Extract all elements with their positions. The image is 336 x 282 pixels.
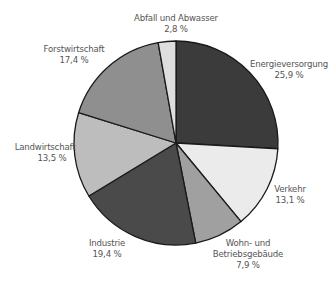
label-verkehr-name: Verkehr — [270, 184, 310, 195]
label-landwirtschaft-name: Landwirtschaft — [10, 142, 80, 153]
label-wohn-name-2: Betriebsgebäude — [212, 249, 284, 260]
pie-slice-energieversorgung — [176, 41, 278, 149]
label-wohn-name-1: Wohn- und — [212, 238, 284, 249]
label-industrie: Industrie 19,4 % — [82, 238, 132, 260]
label-landwirtschaft-value: 13,5 % — [10, 153, 80, 164]
label-industrie-value: 19,4 % — [82, 249, 132, 260]
label-energie-name: Energieversorgung — [243, 59, 335, 70]
pie-chart — [0, 0, 336, 282]
label-forst-value: 17,4 % — [38, 55, 110, 66]
label-wohn-betriebsgebaeude: Wohn- und Betriebsgebäude 7,9 % — [212, 238, 284, 271]
label-abfall: Abfall und Abwasser 2,8 % — [118, 13, 234, 35]
label-verkehr-value: 13,1 % — [270, 195, 310, 206]
label-verkehr: Verkehr 13,1 % — [270, 184, 310, 206]
label-forstwirtschaft: Forstwirtschaft 17,4 % — [38, 44, 110, 66]
label-abfall-name: Abfall und Abwasser — [118, 13, 234, 24]
label-energie-value: 25,9 % — [243, 70, 335, 81]
label-forst-name: Forstwirtschaft — [38, 44, 110, 55]
label-landwirtschaft: Landwirtschaft 13,5 % — [10, 142, 80, 164]
label-wohn-value: 7,9 % — [212, 260, 284, 271]
label-energieversorgung: Energieversorgung 25,9 % — [243, 59, 335, 81]
label-industrie-name: Industrie — [82, 238, 132, 249]
label-abfall-value: 2,8 % — [118, 24, 234, 35]
